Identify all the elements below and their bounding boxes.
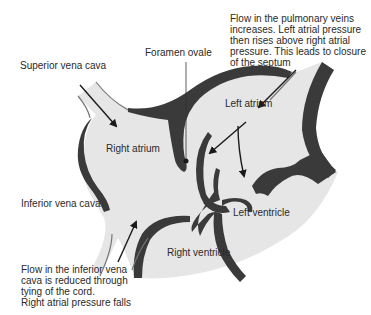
foramen-ovale-dot — [184, 159, 189, 164]
label-left-atrium: Left atrium — [225, 98, 272, 109]
label-ivc-note: Flow in the inferior vena cava is reduce… — [21, 264, 131, 308]
label-inferior-vena-cava: Inferior vena cava — [21, 198, 101, 209]
label-superior-vena-cava: Superior vena cava — [20, 60, 106, 71]
label-foramen-ovale: Foramen ovale — [145, 47, 212, 58]
label-right-atrium: Right atrium — [106, 143, 160, 154]
label-pulmonary-note: Flow in the pulmonary veins increases. L… — [230, 13, 366, 68]
heart-diagram: Superior vena cava Foramen ovale Flow in… — [0, 0, 371, 315]
label-right-ventricle: Right ventricle — [167, 247, 230, 258]
label-left-ventricle: Left ventricle — [233, 207, 290, 218]
